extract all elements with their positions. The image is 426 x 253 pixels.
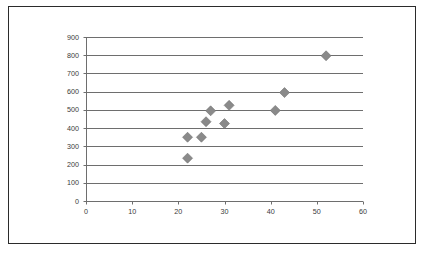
- data-point-marker: [206, 106, 216, 116]
- y-tick-label: 100: [67, 178, 79, 187]
- data-point-marker: [220, 119, 230, 129]
- y-tick-label: 900: [67, 33, 79, 42]
- data-point-marker: [270, 105, 280, 115]
- data-point-marker: [321, 51, 331, 61]
- scatter-plot-svg: 0100200300400500600700800900 01020304050…: [9, 7, 417, 245]
- gridlines-group: [86, 38, 363, 184]
- y-axis-group: [84, 37, 87, 202]
- x-tick-label: 40: [267, 207, 275, 216]
- x-tick-label: 30: [221, 207, 229, 216]
- y-tick-label: 0: [75, 197, 79, 206]
- y-tick-label: 200: [67, 160, 79, 169]
- x-tick-label: 10: [128, 207, 136, 216]
- x-tick-label: 0: [84, 207, 88, 216]
- x-tick-label: 50: [313, 207, 321, 216]
- data-point-marker: [280, 88, 290, 98]
- y-tick-label: 700: [67, 69, 79, 78]
- x-tick-label: 60: [359, 207, 367, 216]
- x-tick-labels-group: 0102030405060: [84, 207, 367, 216]
- y-tick-label: 800: [67, 51, 79, 60]
- data-point-marker: [196, 132, 206, 142]
- data-point-marker: [183, 153, 193, 163]
- data-point-marker: [224, 100, 234, 110]
- y-tick-label: 500: [67, 105, 79, 114]
- chart-frame: 0100200300400500600700800900 01020304050…: [8, 6, 416, 244]
- y-tick-label: 300: [67, 142, 79, 151]
- data-point-marker: [183, 132, 193, 142]
- data-point-marker: [201, 117, 211, 127]
- x-tick-label: 20: [174, 207, 182, 216]
- scatter-chart: 0100200300400500600700800900 01020304050…: [9, 7, 417, 245]
- y-tick-label: 600: [67, 87, 79, 96]
- y-tick-labels-group: 0100200300400500600700800900: [67, 33, 79, 206]
- y-tick-label: 400: [67, 124, 79, 133]
- x-axis-group: [86, 202, 364, 205]
